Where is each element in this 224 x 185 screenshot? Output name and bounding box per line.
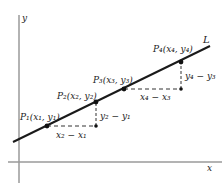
- corner-p1-p2: [94, 124, 98, 128]
- label-p3: P₃(x₃, y₃): [92, 75, 133, 85]
- point-p1: [45, 124, 50, 129]
- label-rise-p3-p4: y₄ − y₃: [184, 71, 216, 81]
- label-p4: P₄(x₄, y₄): [152, 44, 193, 54]
- point-p4: [179, 60, 184, 65]
- diagram-canvas: y x L P₁(x₁, y₁) P₂(x₂, y₂) P₃(x₃, y₃) P…: [0, 0, 224, 185]
- x-axis-label: x: [207, 163, 212, 173]
- label-p2: P₂(x₂, y₂): [56, 91, 97, 101]
- label-rise-p1-p2: y₂ − y₁: [99, 111, 131, 121]
- label-run-p3-p4: x₄ − x₃: [140, 92, 171, 102]
- y-axis-label: y: [21, 13, 28, 23]
- line-L-label: L: [202, 34, 210, 45]
- corner-p3-p4: [179, 87, 183, 91]
- label-p1: P₁(x₁, y₁): [19, 112, 60, 122]
- slope-diagram: y x L P₁(x₁, y₁) P₂(x₂, y₂) P₃(x₃, y₃) P…: [0, 0, 224, 185]
- label-run-p1-p2: x₂ − x₁: [56, 130, 87, 140]
- point-p3: [122, 87, 127, 92]
